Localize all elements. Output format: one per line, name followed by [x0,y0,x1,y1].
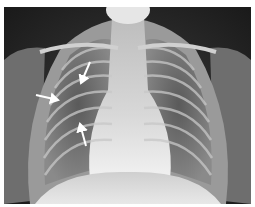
chest-radiograph [4,7,251,204]
xray-image [4,7,251,204]
